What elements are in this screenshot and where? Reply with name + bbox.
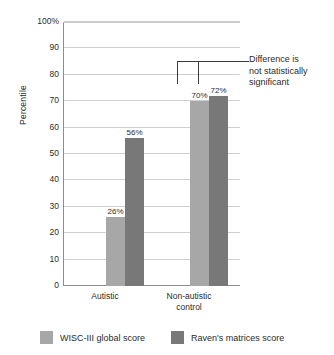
- x-tick-non-autistic-control-line1: Non-autistic: [144, 291, 234, 302]
- y-tick-label-100: 100%: [37, 16, 59, 26]
- legend-swatch-0: [40, 331, 53, 344]
- significance-annotation-line1: Difference is: [249, 54, 333, 66]
- y-tick-label-40: 40: [50, 174, 59, 184]
- legend-item-1[interactable]: Raven's matrices score: [171, 331, 284, 344]
- annotation-bracket-top: [177, 61, 249, 62]
- y-tick-label-50: 50: [50, 148, 59, 158]
- annotation-bracket-right-drop: [198, 61, 199, 84]
- chart-legend: WISC-III global scoreRaven's matrices sc…: [40, 331, 284, 344]
- y-tick-label-70: 70: [50, 95, 59, 105]
- bar-value-label-1-0: 70%: [191, 91, 207, 100]
- legend-label-1: Raven's matrices score: [191, 333, 284, 343]
- bar-0-1[interactable]: 56%: [125, 138, 144, 286]
- legend-swatch-1: [171, 331, 184, 344]
- x-tick-non-autistic-control-line2: control: [144, 302, 234, 313]
- significance-annotation: Difference is not statistically signific…: [249, 54, 333, 89]
- bar-value-label-1-1: 72%: [210, 86, 226, 95]
- legend-item-0[interactable]: WISC-III global score: [40, 331, 145, 344]
- x-tick-autistic-line1: Autistic: [60, 291, 150, 302]
- bar-value-label-0-0: 26%: [107, 207, 123, 216]
- x-tick-autistic: Autistic: [60, 291, 150, 302]
- bars-layer: 26%56%70%72%: [64, 23, 240, 286]
- y-tick-label-0: 0: [54, 280, 59, 290]
- bar-0-0[interactable]: 26%: [106, 217, 125, 286]
- y-tick-label-10: 10: [50, 254, 59, 264]
- y-tick-label-20: 20: [50, 227, 59, 237]
- y-tick-label-30: 30: [50, 201, 59, 211]
- legend-label-0: WISC-III global score: [60, 333, 145, 343]
- y-tick-label-60: 60: [50, 122, 59, 132]
- y-tick-label-80: 80: [50, 69, 59, 79]
- significance-annotation-line3: significant: [249, 77, 333, 89]
- annotation-bracket-left-drop: [177, 61, 178, 84]
- bar-1-1[interactable]: 72%: [209, 96, 228, 286]
- y-axis-title: Percentile: [18, 65, 28, 145]
- y-tick-label-90: 90: [50, 42, 59, 52]
- significance-annotation-line2: not statistically: [249, 66, 333, 78]
- bar-group-1: 70%72%: [190, 96, 228, 286]
- x-tick-non-autistic-control: Non-autistic control: [144, 291, 234, 312]
- bar-group-0: 26%56%: [106, 138, 144, 286]
- bar-1-0[interactable]: 70%: [190, 101, 209, 286]
- gridline-100: 100%: [64, 21, 240, 22]
- bar-value-label-0-1: 56%: [126, 128, 142, 137]
- bar-chart-figure: Percentile 100%9080706050403020100 26%56…: [0, 0, 334, 355]
